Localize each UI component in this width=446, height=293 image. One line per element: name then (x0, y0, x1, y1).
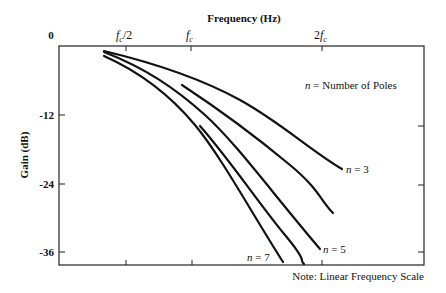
footnote-linear-scale: Note: Linear Frequency Scale (292, 270, 424, 282)
label-n7: n = 7 (247, 251, 270, 263)
y-tick-12: -12 (39, 109, 54, 121)
bottom-ticks (126, 260, 322, 265)
top-ticks (126, 46, 322, 51)
curve-n5 (104, 52, 320, 249)
label-n3-rest: = 3 (352, 163, 370, 175)
x-tick-fc: fc (186, 28, 193, 44)
x-tick-fc-half-tail: /2 (123, 28, 132, 42)
x-tick-fc-sub: c (189, 35, 193, 44)
curve-n7 (104, 56, 283, 262)
right-ticks (418, 126, 424, 252)
legend-number-of-poles: n = Number of Poles (305, 79, 397, 91)
curve-n6 (200, 126, 304, 264)
legend-rest: = Number of Poles (311, 79, 397, 91)
label-n5: n = 5 (323, 243, 346, 255)
chart-title: Frequency (Hz) (207, 12, 281, 25)
curve-n4 (182, 85, 333, 213)
x-tick-2fc: 2fc (314, 28, 327, 44)
y-axis-label: Gain (dB) (18, 131, 31, 178)
left-ticks (59, 115, 65, 252)
x-tick-0: 0 (48, 29, 54, 41)
label-n3: n = 3 (346, 163, 369, 175)
label-n5-rest: = 5 (329, 243, 347, 255)
y-tick-24: -24 (39, 178, 54, 190)
x-tick-2fc-sub: c (323, 35, 327, 44)
y-tick-36: -36 (39, 246, 54, 258)
x-tick-fc-half: fc/2 (116, 28, 132, 44)
gain-vs-frequency-chart: Frequency (Hz) 0 fc/2 fc 2fc -12 -24 -36… (0, 0, 446, 293)
label-n7-rest: = 7 (253, 251, 271, 263)
